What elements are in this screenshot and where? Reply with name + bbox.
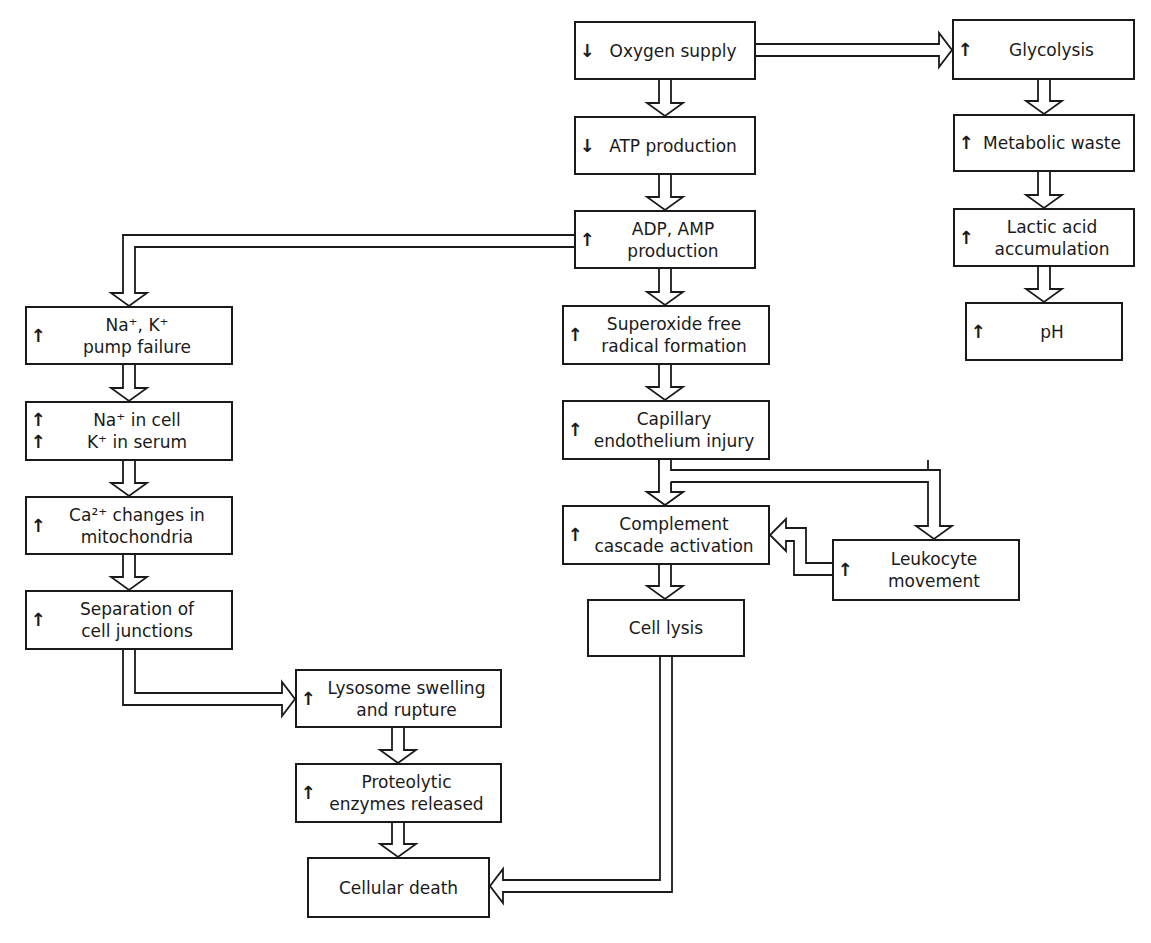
node-separation: ↑ Separation of cell junctions (25, 590, 233, 650)
node-label: Complement cascade activation (586, 513, 768, 557)
up-arrow-icon: ↑ (567, 421, 582, 439)
down-arrow-icon: ↓ (579, 42, 594, 60)
node-proteolytic: ↑ Proteolytic enzymes released (295, 763, 502, 823)
up-arrow-icon: ↑ (297, 690, 319, 708)
node-waste: ↑ Metabolic waste (953, 114, 1135, 172)
arrow-leukocyte-to-complement (770, 519, 832, 575)
up-arrow-icon: ↑ (957, 41, 972, 59)
up-arrow-icon: ↑ (955, 229, 977, 247)
up-arrow-icon: ↑ (30, 411, 45, 429)
arrow-lysosome-to-proteolytic (380, 728, 416, 763)
arrow-lysis-to-death (490, 657, 672, 903)
node-label: Capillary endothelium injury (586, 408, 768, 452)
up-arrow-icon: ↑ (567, 526, 582, 544)
up-arrow-icon: ↑ (564, 421, 586, 439)
up-arrow-icon: ↑ (27, 517, 49, 535)
node-label: ATP production (598, 135, 754, 157)
node-label: Superoxide free radical formation (586, 313, 768, 357)
node-label: Leukocyte movement (856, 548, 1018, 592)
up-arrow-icon: ↑ (297, 784, 319, 802)
up-arrow-icon: ↑ (300, 690, 315, 708)
node-label: Ca²⁺ changes in mitochondria (49, 504, 231, 548)
node-adp: ↑ ADP, AMP production (574, 210, 756, 269)
arrow-superoxide-to-capillary (647, 365, 683, 400)
up-arrow-icon: ↑ (954, 41, 976, 59)
up-arrow-icon: ↑ (30, 433, 45, 451)
node-label: Oxygen supply (598, 40, 754, 62)
node-label: Cell lysis (589, 617, 743, 639)
node-death: Cellular death (307, 857, 490, 918)
up-arrow-icon: ↑ (564, 326, 586, 344)
node-glycolysis: ↑ Glycolysis (952, 19, 1135, 80)
up-arrow-icon: ↑ (834, 561, 856, 579)
up-arrow-icon: ↑ (27, 327, 49, 345)
up-arrow-icon: ↑ (967, 323, 989, 341)
node-nacell: ↑↑ Na⁺ in cell K⁺ in serum (25, 401, 233, 461)
arrow-complement-to-lysis (647, 565, 683, 599)
node-capillary: ↑ Capillary endothelium injury (562, 400, 770, 460)
flowchart-canvas: ↓ Oxygen supply ↓ ATP production ↑ ADP, … (0, 0, 1151, 943)
up-arrow-icon: ↑ (970, 323, 985, 341)
arrow-nacell-to-calcium (111, 461, 147, 496)
node-label: pH (989, 321, 1121, 343)
up-arrow-icon: ↑ (837, 561, 852, 579)
node-label: ADP, AMP production (598, 218, 754, 262)
node-leukocyte: ↑ Leukocyte movement (832, 539, 1020, 601)
up-arrow-icon: ↑ (958, 229, 973, 247)
down-arrow-icon: ↓ (576, 137, 598, 155)
up-arrow-icon: ↑ (567, 326, 582, 344)
arrow-calcium-to-separation (111, 555, 147, 590)
node-lysosome: ↑ Lysosome swelling and rupture (295, 669, 502, 728)
arrow-adp-to-nak (111, 235, 574, 306)
node-superoxide: ↑ Superoxide free radical formation (562, 305, 770, 365)
node-lactic: ↑ Lactic acid accumulation (953, 208, 1135, 267)
node-label: Proteolytic enzymes released (319, 771, 500, 815)
up-arrow-icon: ↑ (30, 611, 45, 629)
up-arrow-icon: ↑ (955, 134, 977, 152)
arrow-waste-to-lactic (1026, 172, 1062, 208)
node-label: Lysosome swelling and rupture (319, 677, 500, 721)
arrow-lactic-to-ph (1026, 267, 1062, 302)
node-nak: ↑ Na⁺, K⁺ pump failure (25, 306, 233, 365)
up-arrow-icon: ↑ (30, 327, 45, 345)
arrow-oxygen-to-atp (647, 80, 683, 116)
node-calcium: ↑ Ca²⁺ changes in mitochondria (25, 496, 233, 555)
arrow-adp-to-superoxide (647, 269, 683, 305)
up-arrow-icon: ↑ (579, 231, 594, 249)
node-lysis: Cell lysis (587, 599, 745, 657)
node-atp: ↓ ATP production (574, 116, 756, 175)
node-label: Metabolic waste (977, 132, 1133, 154)
node-ph: ↑ pH (965, 302, 1123, 361)
node-label: Lactic acid accumulation (977, 216, 1133, 260)
up-arrow-icon: ↑ (958, 134, 973, 152)
node-label: Separation of cell junctions (49, 598, 231, 642)
arrow-glycolysis-to-waste (1026, 80, 1062, 114)
arrow-proteolytic-to-death (380, 823, 416, 857)
up-arrow-icon: ↑ (564, 526, 586, 544)
up-arrow-icon: ↑ (300, 784, 315, 802)
node-oxygen: ↓ Oxygen supply (574, 21, 756, 80)
up-arrow-icon: ↑ (576, 231, 598, 249)
arrow-atp-to-adp (647, 175, 683, 210)
up-arrow-icon: ↑ (27, 611, 49, 629)
arrow-oxygen-to-glycolysis (756, 33, 952, 67)
up-arrow-icon: ↑ (30, 517, 45, 535)
down-arrow-icon: ↓ (579, 137, 594, 155)
node-label: Na⁺, K⁺ pump failure (49, 314, 231, 358)
up-arrow-icon: ↑↑ (27, 411, 49, 451)
node-label: Cellular death (309, 877, 488, 899)
node-complement: ↑ Complement cascade activation (562, 505, 770, 565)
node-label: Glycolysis (976, 39, 1133, 61)
node-label: Na⁺ in cell K⁺ in serum (49, 409, 231, 453)
arrow-nak-to-nacell (111, 365, 147, 401)
arrow-separation-to-lysosome (123, 650, 295, 716)
down-arrow-icon: ↓ (576, 42, 598, 60)
